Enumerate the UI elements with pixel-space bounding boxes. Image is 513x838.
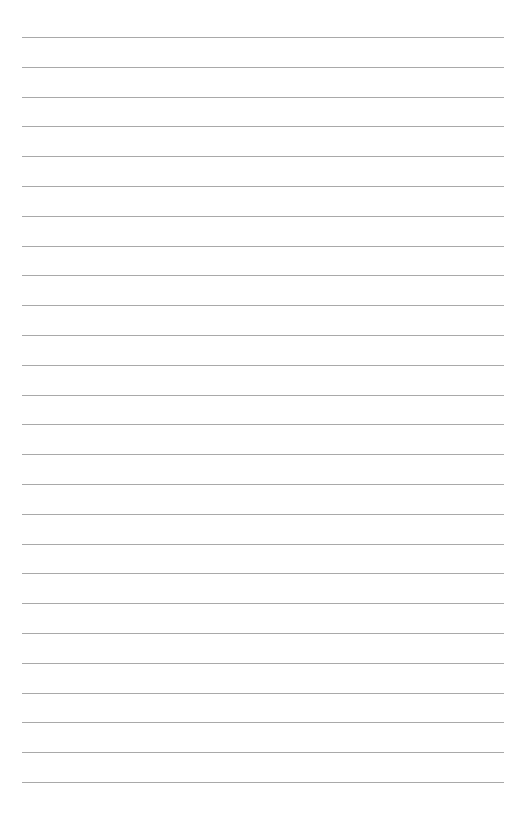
ruled-line: [22, 246, 504, 247]
ruled-line: [22, 424, 504, 425]
ruled-line: [22, 365, 504, 366]
ruled-line: [22, 275, 504, 276]
ruled-line: [22, 633, 504, 634]
ruled-line: [22, 752, 504, 753]
lined-paper-page: [0, 0, 513, 838]
ruled-line: [22, 156, 504, 157]
ruled-line: [22, 722, 504, 723]
ruled-line: [22, 126, 504, 127]
ruled-line: [22, 305, 504, 306]
ruled-line: [22, 97, 504, 98]
ruled-line: [22, 37, 504, 38]
ruled-line: [22, 663, 504, 664]
ruled-line: [22, 395, 504, 396]
ruled-line: [22, 216, 504, 217]
ruled-line: [22, 186, 504, 187]
ruled-line: [22, 573, 504, 574]
ruled-line: [22, 67, 504, 68]
ruled-line: [22, 693, 504, 694]
ruled-line: [22, 484, 504, 485]
ruled-line: [22, 603, 504, 604]
ruled-line: [22, 454, 504, 455]
ruled-line: [22, 782, 504, 783]
ruled-line: [22, 544, 504, 545]
ruled-line: [22, 335, 504, 336]
ruled-line: [22, 514, 504, 515]
